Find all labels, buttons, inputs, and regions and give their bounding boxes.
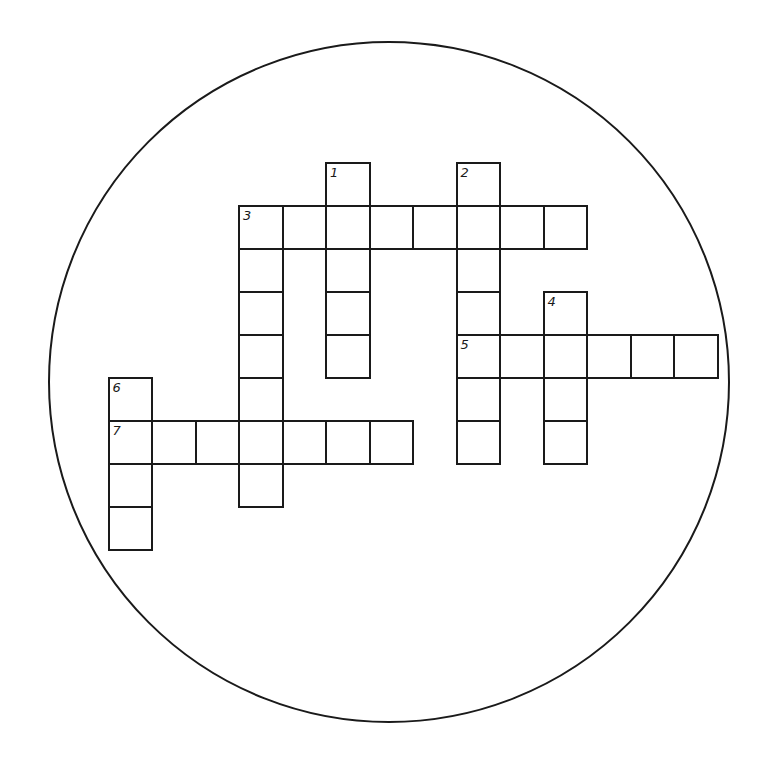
grid-cell[interactable] [238,291,284,336]
clue-number: 4 [548,294,556,309]
grid-cell[interactable] [238,420,284,465]
clue-number: 1 [330,165,338,180]
grid-cell[interactable] [543,420,589,465]
grid-cell[interactable] [586,334,632,379]
clue-number: 6 [113,380,121,395]
grid-cell[interactable] [282,420,328,465]
clue-number: 7 [113,423,121,438]
grid-cell[interactable]: 3 [238,205,284,250]
grid-cell[interactable] [543,205,589,250]
grid-cell[interactable] [238,334,284,379]
grid-cell[interactable] [456,420,502,465]
grid-cell[interactable] [108,463,154,508]
grid-cell[interactable] [325,334,371,379]
crossword-puzzle: 1253467 [0,0,776,764]
grid-cell[interactable] [282,205,328,250]
grid-cell[interactable] [456,205,502,250]
grid-cell[interactable]: 2 [456,162,502,207]
clue-number: 2 [461,165,469,180]
clue-number: 5 [461,337,469,352]
grid-cell[interactable] [456,248,502,293]
grid-cell[interactable] [325,420,371,465]
grid-cell[interactable] [238,463,284,508]
grid-cell[interactable] [325,248,371,293]
grid-cell[interactable] [499,205,545,250]
grid-cell[interactable] [238,377,284,422]
grid-cell[interactable] [151,420,197,465]
grid-cell[interactable] [238,248,284,293]
grid-cell[interactable] [673,334,719,379]
grid-cell[interactable] [369,420,415,465]
grid-cell[interactable] [369,205,415,250]
clue-number: 3 [243,208,251,223]
grid-cell[interactable]: 6 [108,377,154,422]
grid-cell[interactable] [108,506,154,551]
grid-cell[interactable] [325,205,371,250]
grid-cell[interactable] [412,205,458,250]
grid-cell[interactable]: 4 [543,291,589,336]
grid-cell[interactable]: 7 [108,420,154,465]
grid-cell[interactable] [195,420,241,465]
grid-cell[interactable] [456,291,502,336]
grid-cell[interactable]: 1 [325,162,371,207]
grid-cell[interactable] [543,334,589,379]
grid-cell[interactable] [456,377,502,422]
grid-cell[interactable] [325,291,371,336]
grid-cell[interactable]: 5 [456,334,502,379]
grid-cell[interactable] [630,334,676,379]
grid-cell[interactable] [499,334,545,379]
grid-cell[interactable] [543,377,589,422]
